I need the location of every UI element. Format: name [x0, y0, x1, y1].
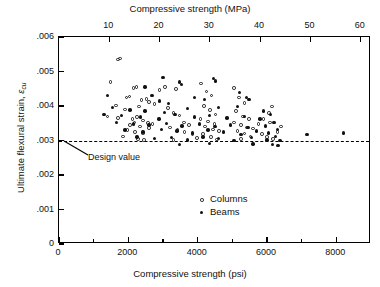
x-axis-top-tick: [109, 37, 110, 42]
data-point-column: [140, 98, 144, 102]
data-point-column: [106, 115, 110, 119]
data-point-column: [166, 106, 170, 110]
data-point-beam: [239, 133, 242, 136]
data-point-column: [239, 137, 243, 141]
data-point-beam: [258, 117, 261, 120]
data-point-column: [279, 125, 283, 129]
data-point-column: [205, 90, 209, 94]
data-point-beam: [208, 114, 211, 117]
data-point-beam: [264, 124, 267, 127]
x-axis-minor-tick: [93, 239, 94, 242]
x-axis-minor-tick: [232, 239, 233, 242]
data-point-beam: [165, 122, 168, 125]
data-point-column: [236, 129, 240, 133]
data-point-beam: [191, 131, 194, 134]
data-point-beam: [262, 109, 265, 112]
data-point-beam: [247, 98, 250, 101]
data-point-beam: [222, 130, 225, 133]
x-axis-top-tick-label: 40: [254, 20, 264, 30]
data-point-column: [153, 102, 157, 106]
data-point-beam: [246, 126, 249, 129]
data-point-column: [208, 108, 212, 112]
data-point-column: [199, 82, 203, 86]
data-point-column: [187, 123, 191, 127]
data-point-beam: [115, 121, 118, 124]
x-axis-tick-label: 2000: [117, 247, 137, 257]
data-point-beam: [203, 98, 206, 101]
y-axis-tick-label: .006: [26, 31, 54, 41]
x-axis-top-title: Compressive strength (MPa): [0, 4, 380, 14]
y-axis-tick: [59, 36, 64, 37]
data-point-beam: [147, 123, 150, 126]
data-point-beam: [143, 109, 146, 112]
data-point-column: [141, 119, 145, 123]
data-point-beam: [123, 128, 126, 131]
data-point-column: [158, 88, 162, 92]
data-point-column: [114, 104, 118, 108]
data-point-beam: [250, 136, 253, 139]
data-point-beam: [157, 117, 160, 120]
data-point-beam: [269, 113, 272, 116]
y-axis-tick-label: .002: [26, 169, 54, 179]
data-point-column: [199, 117, 203, 121]
data-point-beam: [225, 116, 228, 119]
data-point-beam: [135, 135, 138, 138]
data-point-beam: [180, 124, 183, 127]
data-point-beam: [120, 114, 123, 117]
x-axis-top-tick-label: 60: [355, 20, 365, 30]
data-point-column: [234, 109, 238, 113]
data-point-column: [232, 121, 236, 125]
data-point-beam: [272, 121, 275, 124]
data-point-column: [260, 132, 264, 136]
data-point-beam: [255, 129, 258, 132]
y-axis-tick-label: .005: [26, 66, 54, 76]
y-axis-tick: [59, 209, 64, 210]
data-point-beam: [175, 129, 178, 132]
data-point-column: [116, 116, 120, 120]
data-point-beam: [229, 123, 232, 126]
design-value-annotation: Design value: [88, 153, 140, 162]
data-point-beam: [213, 125, 216, 128]
x-axis-top-tick: [209, 37, 210, 42]
x-axis-top-tick: [310, 37, 311, 42]
data-point-column: [237, 96, 241, 100]
data-point-beam: [102, 113, 105, 116]
data-point-column: [195, 136, 199, 140]
x-axis-tick: [266, 237, 267, 242]
y-axis-title-prefix: Ultimate flexural strain,: [15, 94, 26, 193]
data-point-beam: [111, 106, 114, 109]
x-axis-tick: [197, 237, 198, 242]
y-axis-tick-label: .001: [26, 204, 54, 214]
data-point-beam: [143, 85, 146, 88]
x-axis-top-tick-label: 20: [154, 20, 164, 30]
x-axis-bottom-title: Compressive strength (psi): [0, 269, 380, 279]
data-point-beam: [267, 131, 270, 134]
data-point-beam: [208, 142, 211, 145]
data-point-beam: [193, 96, 196, 99]
data-point-beam: [201, 135, 204, 138]
data-point-beam: [180, 83, 183, 86]
x-axis-tick: [336, 237, 337, 242]
data-point-beam: [278, 139, 281, 142]
data-point-column: [243, 132, 247, 136]
x-axis-tick: [58, 237, 59, 242]
data-point-column: [243, 101, 247, 105]
open-circle-icon: [200, 198, 204, 202]
y-axis-tick: [59, 71, 64, 72]
x-axis-top-tick-label: 30: [204, 20, 214, 30]
data-point-column: [257, 122, 261, 126]
y-axis-title-subscript: cu: [20, 83, 27, 90]
data-point-beam: [173, 113, 176, 116]
data-point-beam: [232, 139, 235, 142]
data-point-beam: [251, 142, 254, 145]
data-point-beam: [236, 105, 239, 108]
data-point-beam: [186, 107, 189, 110]
y-axis-tick: [59, 243, 64, 244]
data-point-column: [232, 86, 236, 90]
data-point-column: [209, 135, 213, 139]
data-point-column: [123, 108, 127, 112]
data-point-beam: [206, 128, 209, 131]
x-axis-tick-label: 0: [55, 247, 60, 257]
x-axis-minor-tick: [301, 239, 302, 242]
data-point-beam: [150, 94, 153, 97]
